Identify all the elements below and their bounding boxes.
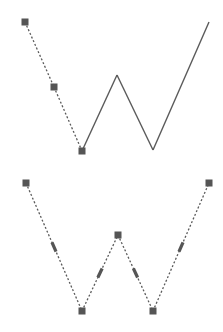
partially-converted-path [22,19,210,155]
midpoint-handle[interactable] [52,242,56,251]
midpoint-handle[interactable] [98,268,102,277]
solid-path-segment[interactable] [117,75,153,150]
dashed-path-segment[interactable] [25,22,54,87]
midpoint-handle[interactable] [133,268,137,277]
anchor-point-handle[interactable] [150,308,157,315]
anchor-point-handle[interactable] [79,308,86,315]
anchor-point-handle[interactable] [22,19,29,26]
anchor-point-handle[interactable] [51,84,58,91]
anchor-point-handle[interactable] [115,232,122,239]
solid-path-segment[interactable] [153,22,209,150]
dashed-path-segment[interactable] [54,87,82,151]
anchor-point-handle[interactable] [206,180,213,187]
midpoint-handle[interactable] [179,242,183,251]
solid-path-segment[interactable] [82,75,117,151]
path-editing-canvas [0,0,223,332]
anchor-point-handle[interactable] [79,148,86,155]
anchor-point-handle[interactable] [23,180,30,187]
fully-converted-path [23,180,213,315]
